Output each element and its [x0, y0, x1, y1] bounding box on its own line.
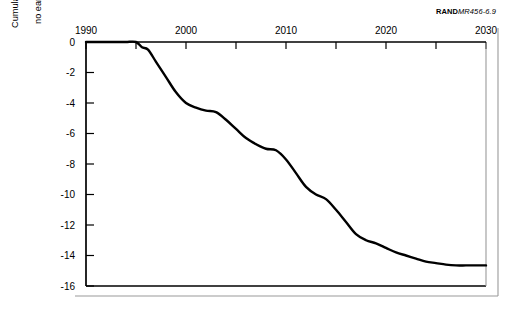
plot-frame — [75, 28, 498, 296]
source-tag-brand: RAND — [436, 7, 458, 16]
axis-tick-marks — [86, 42, 486, 286]
x-tick-label: 2010 — [275, 25, 298, 36]
y-tick-label: -6 — [66, 128, 75, 139]
y-axis-tick-labels: 0-2-4-6-8-10-12-14-16 — [61, 37, 76, 292]
data-series-line — [86, 42, 486, 266]
y-tick-label: -4 — [66, 98, 75, 109]
x-tick-label: 2020 — [375, 25, 398, 36]
y-axis-title-line-1: Cumulative cost of early decommissioning… — [10, 0, 22, 44]
source-tag-code: MR456-6.9 — [458, 7, 496, 16]
y-tick-label: 0 — [69, 37, 75, 48]
plot-axes — [86, 42, 486, 286]
y-tick-label: -12 — [61, 220, 76, 231]
y-tick-label: -14 — [61, 250, 76, 261]
chart-plot: 19902000201020202030 0-2-4-6-8-10-12-14-… — [0, 0, 520, 311]
y-tick-label: -8 — [66, 159, 75, 170]
x-tick-label: 2030 — [475, 25, 498, 36]
y-axis-title: Cumulative cost of early decommissioning… — [22, 0, 56, 44]
y-tick-label: -10 — [61, 189, 76, 200]
y-tick-label: -2 — [66, 67, 75, 78]
source-tag: RANDMR456-6.9 — [436, 8, 496, 16]
y-tick-label: -16 — [61, 281, 76, 292]
x-tick-label: 2000 — [175, 25, 198, 36]
x-axis-tick-labels: 19902000201020202030 — [75, 25, 498, 36]
y-axis-title-line-2: no early decommissioning (billions of 19… — [33, 0, 45, 44]
figure-container: RANDMR456-6.9 Cumulative cost of early d… — [0, 0, 520, 311]
x-tick-label: 1990 — [75, 25, 98, 36]
